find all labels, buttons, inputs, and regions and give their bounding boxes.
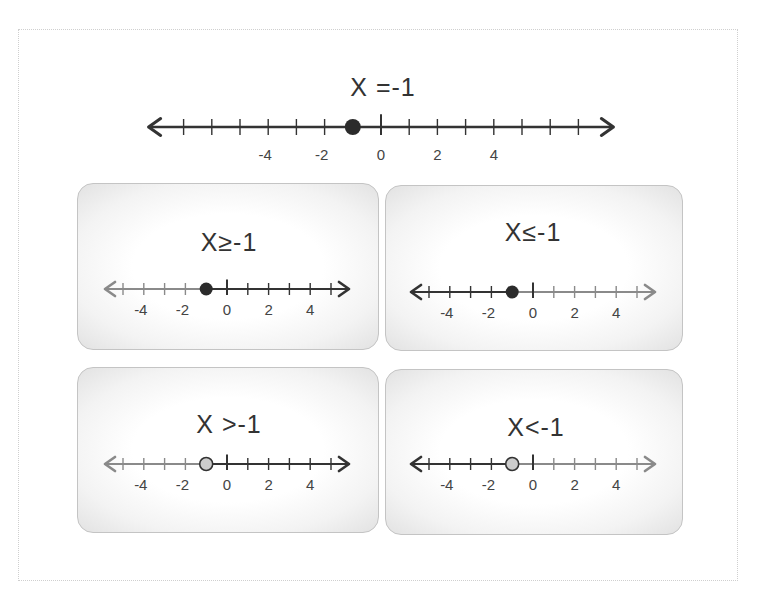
svg-text:-4: -4 <box>440 476 453 493</box>
svg-text:0: 0 <box>223 301 231 318</box>
svg-text:0: 0 <box>223 476 231 493</box>
number-line-le: -4-2024 <box>411 282 655 321</box>
svg-text:0: 0 <box>529 304 537 321</box>
svg-text:2: 2 <box>570 476 578 493</box>
svg-text:-4: -4 <box>440 304 453 321</box>
number-line-lt: -4-2024 <box>411 454 655 493</box>
svg-text:4: 4 <box>612 476 620 493</box>
svg-text:4: 4 <box>612 304 620 321</box>
svg-text:4: 4 <box>306 301 314 318</box>
panel-number-lines: -4-2024-4-2024-4-2024-4-2024 <box>0 0 759 593</box>
svg-text:2: 2 <box>264 476 272 493</box>
svg-text:-4: -4 <box>134 476 147 493</box>
svg-text:-2: -2 <box>176 301 189 318</box>
number-line-gt: -4-2024 <box>105 454 349 493</box>
svg-text:2: 2 <box>264 301 272 318</box>
svg-text:4: 4 <box>306 476 314 493</box>
svg-text:-4: -4 <box>134 301 147 318</box>
svg-text:-2: -2 <box>482 476 495 493</box>
number-line-ge: -4-2024 <box>105 279 349 318</box>
svg-text:2: 2 <box>570 304 578 321</box>
svg-text:-2: -2 <box>482 304 495 321</box>
svg-text:-2: -2 <box>176 476 189 493</box>
svg-text:0: 0 <box>529 476 537 493</box>
